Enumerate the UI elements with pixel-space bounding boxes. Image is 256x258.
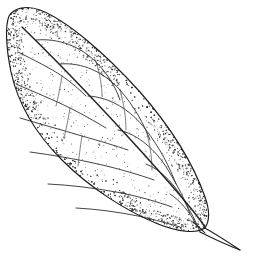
stipple-dot xyxy=(101,179,102,180)
stipple-dot xyxy=(80,171,81,172)
stipple-dot xyxy=(148,204,149,205)
stipple-dot xyxy=(39,13,40,14)
stipple-dot xyxy=(203,218,204,219)
stipple-dot xyxy=(84,135,85,136)
stipple-dot xyxy=(21,41,22,42)
stipple-dot xyxy=(50,128,51,129)
stipple-dot xyxy=(46,137,47,138)
stipple-dot xyxy=(95,65,96,66)
stipple-dot xyxy=(104,73,105,74)
stipple-dot xyxy=(11,28,12,29)
stipple-dot xyxy=(127,140,128,141)
stipple-dot xyxy=(72,160,73,161)
stipple-dot xyxy=(22,70,23,71)
stipple-dot xyxy=(197,191,198,192)
stipple-dot xyxy=(168,140,169,141)
stipple-dot xyxy=(105,140,106,141)
stipple-dot xyxy=(60,30,61,31)
stipple-dot xyxy=(71,126,72,127)
stipple-dot xyxy=(50,26,51,27)
stipple-dot xyxy=(183,172,184,173)
stipple-dot xyxy=(191,175,192,176)
stipple-dot xyxy=(16,72,17,73)
stipple-dot xyxy=(140,211,141,212)
stipple-dot xyxy=(198,202,199,203)
stipple-dot xyxy=(88,47,89,48)
stipple-dot xyxy=(54,132,55,133)
stipple-dot xyxy=(72,31,73,32)
stipple-dot xyxy=(106,152,107,153)
stipple-dot xyxy=(10,36,11,37)
stipple-dot xyxy=(61,62,62,63)
stipple-dot xyxy=(117,70,118,71)
stipple-dot xyxy=(71,94,72,95)
stipple-dot xyxy=(43,49,44,50)
stipple-dot xyxy=(85,41,86,42)
stipple-dot xyxy=(169,158,170,159)
stipple-dot xyxy=(121,196,122,197)
stipple-dot xyxy=(17,81,18,82)
stipple-dot xyxy=(197,195,198,196)
stipple-dot xyxy=(76,120,77,121)
stipple-dot xyxy=(24,89,25,90)
stipple-dot xyxy=(29,86,30,87)
stipple-dot xyxy=(117,72,118,73)
stipple-dot xyxy=(19,23,20,24)
stipple-dot xyxy=(10,61,11,62)
stipple-dot xyxy=(102,137,103,138)
stipple-dot xyxy=(59,37,60,38)
leaf-drawing-canvas xyxy=(0,0,256,258)
stipple-dot xyxy=(55,32,56,33)
stipple-dot xyxy=(21,72,23,74)
stipple-dot xyxy=(165,144,166,145)
stipple-dot xyxy=(18,40,20,42)
stipple-dot xyxy=(83,55,84,56)
stipple-dot xyxy=(10,57,11,58)
stipple-dot xyxy=(31,110,32,111)
stipple-dot xyxy=(154,130,155,131)
stipple-dot xyxy=(123,134,124,135)
stipple-dot xyxy=(97,60,98,61)
stipple-dot xyxy=(126,205,127,206)
stipple-dot xyxy=(180,227,181,228)
stipple-dot xyxy=(82,173,83,174)
stipple-dot xyxy=(199,190,200,191)
stipple-dot xyxy=(103,115,104,116)
stipple-dot xyxy=(51,31,52,32)
stipple-dot xyxy=(49,30,50,31)
stipple-dot xyxy=(154,114,155,115)
stipple-dot xyxy=(39,26,40,27)
stipple-dot xyxy=(161,205,162,206)
stipple-dot xyxy=(19,28,20,29)
stipple-dot xyxy=(9,29,10,30)
stipple-dot xyxy=(18,63,19,64)
stipple-dot xyxy=(166,137,167,138)
stipple-dot xyxy=(114,69,115,70)
stipple-dot xyxy=(151,117,152,118)
stipple-dot xyxy=(120,195,121,196)
stipple-dot xyxy=(72,68,73,69)
stipple-dot xyxy=(19,44,21,46)
stipple-dot xyxy=(165,188,166,189)
stipple-dot xyxy=(173,210,174,211)
stipple-dot xyxy=(201,204,203,206)
stipple-dot xyxy=(128,202,129,203)
stipple-dot xyxy=(55,125,56,126)
stipple-dot xyxy=(76,154,77,155)
stipple-dot xyxy=(42,23,44,25)
stipple-dot xyxy=(172,223,173,224)
stipple-dot xyxy=(61,140,63,142)
stipple-dot xyxy=(206,209,207,210)
stipple-dot xyxy=(145,151,146,152)
stipple-dot xyxy=(106,60,107,61)
stipple-dot xyxy=(25,17,26,18)
stipple-dot xyxy=(22,98,23,99)
stipple-dot xyxy=(112,98,113,99)
stipple-dot xyxy=(94,150,95,151)
stipple-dot xyxy=(29,73,30,74)
stipple-dot xyxy=(35,23,36,24)
stipple-dot xyxy=(85,105,86,106)
stipple-dot xyxy=(114,131,115,132)
stipple-dot xyxy=(181,224,182,225)
stipple-dot xyxy=(191,176,192,177)
